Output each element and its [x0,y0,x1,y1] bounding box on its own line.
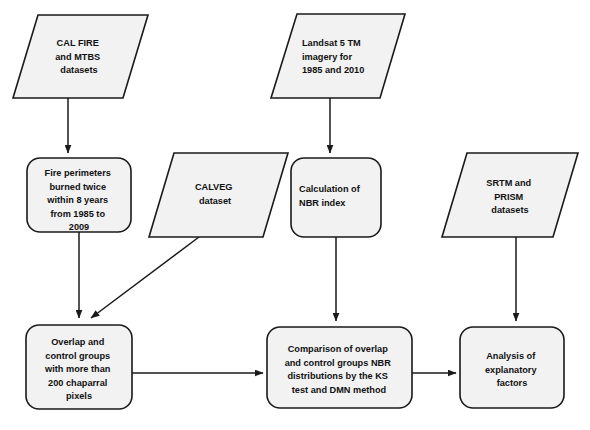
edge-calveg-to-overlap [91,237,199,318]
node-analysis[interactable]: Analysis of explanatory factors [460,327,564,408]
node-srtm-prism[interactable]: SRTM and PRISM datasets [442,153,578,237]
node-fire-perimeters[interactable]: Fire perimeters burned twice within 8 ye… [27,158,131,232]
node-cal-fire-mtbs[interactable]: CAL FIRE and MTBS datasets [13,15,148,98]
node-landsat[interactable]: Landsat 5 TM imagery for 1985 and 2010 [271,14,405,98]
node-overlap-control[interactable]: Overlap and control groups with more tha… [26,325,132,409]
node-nbr-index[interactable]: Calculation of NBR index [291,158,381,237]
flowchart-diagram: CAL FIRE and MTBS datasets Landsat 5 TM … [0,0,590,430]
node-calveg[interactable]: CALVEG dataset [149,153,288,237]
rounded-rect-shape [267,327,412,408]
node-label-cal-fire-mtbs: CAL FIRE and MTBS datasets [55,38,102,75]
node-comparison[interactable]: Comparison of overlap and control groups… [267,327,412,408]
